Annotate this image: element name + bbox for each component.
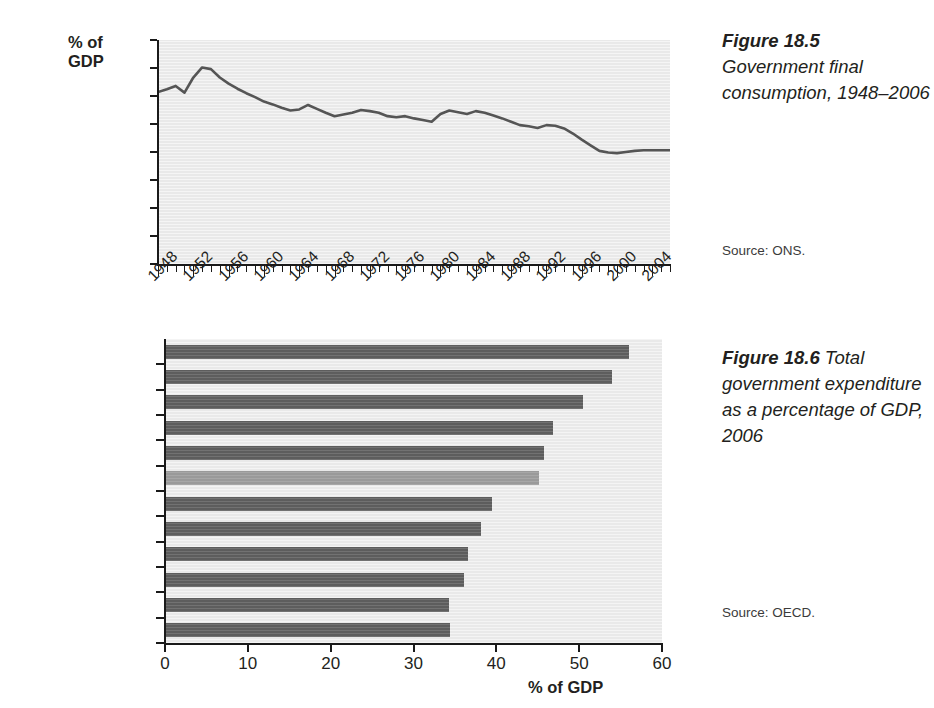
- x-tick-minor: [423, 266, 424, 272]
- y-tick: [156, 414, 164, 416]
- x-tick: [330, 645, 332, 652]
- x-tick-minor: [282, 266, 283, 272]
- bar-france: [165, 370, 612, 384]
- figure-18-6: SwedenFranceItalyNetherlandsGermanyUKCan…: [0, 326, 700, 708]
- x-tick-label: 20: [321, 654, 340, 674]
- x-tick-label: 50: [570, 654, 589, 674]
- y-tick: [156, 389, 164, 391]
- line-plot-area: [158, 40, 670, 264]
- y-tick: [156, 566, 164, 568]
- y-tick: [150, 207, 157, 209]
- y-tick: [150, 179, 157, 181]
- line-series-government-final-consumption: [158, 40, 670, 264]
- x-tick-minor: [352, 266, 353, 272]
- x-tick-minor: [388, 266, 389, 272]
- figure-18-5-label: Figure 18.5: [722, 30, 820, 51]
- figure-page: % of GDP 0510152025303540 19481952195619…: [0, 0, 934, 708]
- x-tick-minor: [529, 266, 530, 272]
- bar-sweden: [165, 345, 629, 359]
- x-tick-minor: [211, 266, 212, 272]
- x-tick: [413, 645, 415, 652]
- bar-plot-area: [165, 339, 662, 643]
- y-tick: [156, 363, 164, 365]
- y-tick: [156, 439, 164, 441]
- figure-18-6-source: Source: OECD.: [722, 605, 815, 620]
- y-tick: [150, 95, 157, 97]
- y-tick: [156, 642, 164, 644]
- y-tick: [150, 151, 157, 153]
- bar-usa: [165, 547, 468, 561]
- y-axis-line: [157, 40, 159, 265]
- figure-18-5-caption: Figure 18.5 Government final consumption…: [722, 28, 934, 106]
- x-axis-title: % of GDP: [528, 678, 603, 697]
- x-tick: [661, 645, 663, 652]
- y-tick: [150, 123, 157, 125]
- y-axis-title-line1: % of: [68, 33, 104, 52]
- x-tick-minor: [635, 266, 636, 272]
- y-tick: [156, 515, 164, 517]
- x-tick-minor: [458, 266, 459, 272]
- y-tick: [150, 235, 157, 237]
- x-tick-minor: [317, 266, 318, 272]
- figure-18-5-caption-text: Government final consumption, 1948–2006: [722, 56, 930, 103]
- figure-18-5: % of GDP 0510152025303540 19481952195619…: [0, 0, 700, 320]
- bar-japan: [165, 522, 481, 536]
- x-tick-label: 40: [487, 654, 506, 674]
- x-tick-label: 0: [160, 654, 169, 674]
- y-tick: [156, 591, 164, 593]
- x-tick-label: 60: [653, 654, 672, 674]
- y-tick: [150, 67, 157, 69]
- bar-switzerland: [165, 573, 464, 587]
- bar-italy: [165, 395, 583, 409]
- x-tick: [495, 645, 497, 652]
- y-axis-title-line2: GDP: [68, 52, 104, 71]
- y-axis-line: [164, 339, 166, 644]
- y-tick: [150, 39, 157, 41]
- y-axis-title: % of GDP: [68, 33, 104, 71]
- y-tick: [156, 617, 164, 619]
- bar-australia: [165, 623, 450, 637]
- x-tick-label: 30: [404, 654, 423, 674]
- y-tick: [156, 465, 164, 467]
- figure-18-6-caption: Figure 18.6 Total government expenditure…: [722, 345, 934, 449]
- x-tick-minor: [599, 266, 600, 272]
- figure-18-5-source: Source: ONS.: [722, 243, 805, 258]
- x-tick-label: 10: [238, 654, 257, 674]
- x-tick-minor: [246, 266, 247, 272]
- x-tick: [578, 645, 580, 652]
- figure-18-6-label: Figure 18.6: [722, 347, 820, 368]
- y-tick: [156, 490, 164, 492]
- y-tick: [156, 541, 164, 543]
- x-tick: [164, 645, 166, 652]
- x-tick-minor: [493, 266, 494, 272]
- x-tick-minor: [564, 266, 565, 272]
- x-tick-minor: [176, 266, 177, 272]
- x-tick-minor: [670, 266, 671, 272]
- bar-germany: [165, 446, 544, 460]
- bar-canada: [165, 497, 492, 511]
- x-tick: [247, 645, 249, 652]
- bar-netherlands: [165, 421, 553, 435]
- bar-ireland: [165, 598, 449, 612]
- bar-uk: [165, 471, 539, 485]
